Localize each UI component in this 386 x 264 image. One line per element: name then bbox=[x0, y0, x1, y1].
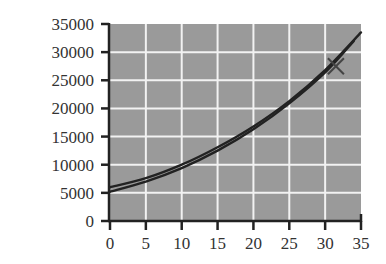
x-tick-label: 35 bbox=[353, 234, 370, 253]
x-tick-label: 30 bbox=[317, 234, 334, 253]
y-tick-label: 25000 bbox=[52, 71, 95, 90]
x-tick-label: 10 bbox=[173, 234, 190, 253]
x-tick-label: 15 bbox=[209, 234, 226, 253]
y-tick-label: 20000 bbox=[52, 99, 95, 118]
y-tick-label: 0 bbox=[86, 212, 95, 231]
x-axis-ticks: 05101520253035 bbox=[106, 221, 370, 253]
y-axis-ticks: 05000100001500020000250003000035000 bbox=[52, 15, 110, 231]
x-tick-label: 5 bbox=[142, 234, 151, 253]
x-tick-label: 25 bbox=[281, 234, 298, 253]
chart: 05000100001500020000250003000035000 0510… bbox=[0, 0, 386, 264]
y-tick-label: 10000 bbox=[52, 156, 95, 175]
x-tick-label: 0 bbox=[106, 234, 115, 253]
y-tick-label: 15000 bbox=[52, 128, 95, 147]
y-tick-label: 5000 bbox=[60, 184, 94, 203]
y-tick-label: 35000 bbox=[52, 15, 95, 34]
y-tick-label: 30000 bbox=[52, 43, 95, 62]
x-tick-label: 20 bbox=[245, 234, 262, 253]
plot-background bbox=[110, 24, 361, 221]
